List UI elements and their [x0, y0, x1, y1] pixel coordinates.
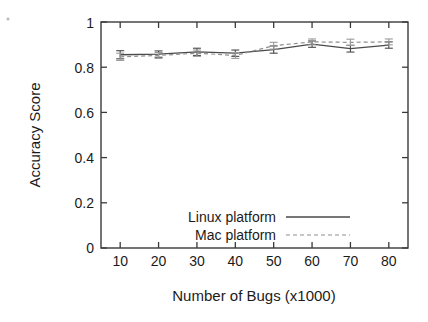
scan-speck	[6, 17, 9, 20]
x-tick-label: 20	[151, 253, 167, 269]
y-tick-label: 0.4	[75, 150, 95, 166]
y-tick-label: 0	[86, 240, 94, 256]
x-axis-title: Number of Bugs (x1000)	[172, 287, 335, 304]
x-tick-label: 40	[228, 253, 244, 269]
y-tick-label: 0.6	[75, 105, 95, 121]
x-tick-label: 10	[112, 253, 128, 269]
accuracy-score-line-chart: Accuracy Score Number of Bugs (x1000) 1 …	[0, 0, 428, 322]
y-tick-label: 0.8	[75, 60, 95, 76]
x-tick-label: 70	[343, 253, 359, 269]
x-tick-label: 80	[381, 253, 397, 269]
x-tick-label: 50	[266, 253, 282, 269]
y-tick-label: 0.2	[75, 195, 95, 211]
legend-label-mac: Mac platform	[195, 227, 276, 243]
y-axis-title: Accuracy Score	[26, 82, 43, 187]
chart-background	[0, 0, 428, 322]
y-tick-label: 1	[86, 15, 94, 31]
legend-label-linux: Linux platform	[188, 209, 276, 225]
chart-figure: Accuracy Score Number of Bugs (x1000) 1 …	[0, 0, 428, 322]
x-tick-label: 60	[304, 253, 320, 269]
x-tick-label: 30	[189, 253, 205, 269]
